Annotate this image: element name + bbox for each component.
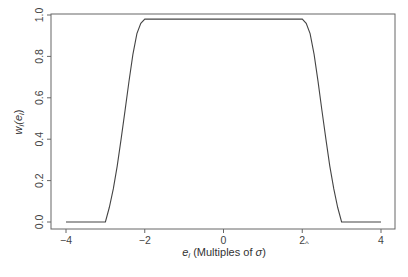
weight-curve (66, 19, 381, 222)
x-tick-label: −2 (139, 234, 151, 246)
x-tick-label: 0 (221, 234, 227, 246)
y-tick-label: 0.4 (33, 132, 45, 147)
y-tick-label: 0.0 (33, 215, 45, 230)
weight-function-chart: −4−2024 0.00.20.40.60.81.0 ei (Multiples… (0, 0, 408, 277)
y-tick-label: 0.2 (33, 173, 45, 188)
y-tick-label: 0.6 (33, 90, 45, 105)
y-tick-label: 0.8 (33, 49, 45, 64)
y-tick-label: 1.0 (33, 8, 45, 23)
sigma-hat-accent: ^ (305, 239, 309, 248)
plot-frame (51, 14, 395, 229)
y-axis-title: wi(ei) (12, 110, 26, 135)
y-axis-ticks: 0.00.20.40.60.81.0 (33, 8, 51, 230)
x-axis-title: ei (Multiples of σ) (182, 246, 266, 260)
x-tick-label: −4 (60, 234, 72, 246)
x-tick-label: 4 (378, 234, 384, 246)
x-axis-ticks: −4−2024 (60, 229, 384, 246)
